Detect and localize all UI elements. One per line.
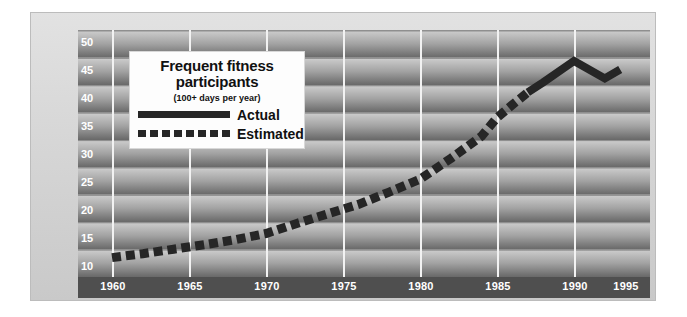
chart-legend: Frequent fitness participants (100+ days… [130, 52, 304, 148]
legend-title: Frequent fitness participants [138, 58, 296, 90]
x-axis-strip: 1960 1965 1970 1975 1980 1985 1990 1995 [78, 277, 650, 298]
legend-subtitle: (100+ days per year) [138, 93, 296, 103]
chart-frame: U.S. participants (in millions) 50 45 40… [30, 12, 656, 301]
legend-swatch-solid-icon [138, 111, 230, 118]
legend-title-line1: Frequent fitness [138, 58, 296, 74]
legend-entry-actual: Actual [138, 108, 296, 122]
legend-title-line2: participants [138, 74, 296, 90]
x-tick-label-1990: 1990 [562, 280, 587, 292]
legend-entry-estimated: Estimated [138, 127, 296, 141]
x-tick-label-1975: 1975 [331, 280, 356, 292]
x-tick-label-1980: 1980 [408, 280, 433, 292]
x-tick-label-1970: 1970 [254, 280, 279, 292]
plot-panel: 50 45 40 35 30 25 20 15 10 Frequent fitn… [78, 30, 650, 298]
x-tick-label-1995: 1995 [613, 280, 638, 292]
legend-label-estimated: Estimated [237, 127, 304, 141]
x-tick-label-1965: 1965 [177, 280, 202, 292]
legend-label-actual: Actual [237, 108, 280, 122]
x-tick-label-1985: 1985 [485, 280, 510, 292]
plot-area: 50 45 40 35 30 25 20 15 10 Frequent fitn… [78, 30, 650, 277]
legend-swatch-dashed-icon [138, 130, 230, 137]
x-tick-label-1960: 1960 [100, 280, 125, 292]
series-actual-line [528, 61, 620, 92]
chart-figure: U.S. participants (in millions) 50 45 40… [0, 0, 687, 317]
